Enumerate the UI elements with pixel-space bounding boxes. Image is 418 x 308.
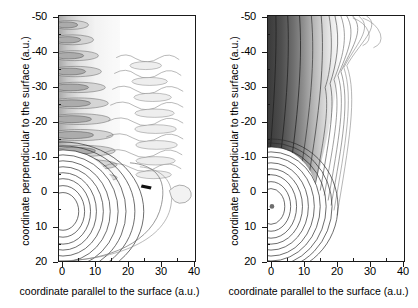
plot-area-right [267, 15, 405, 262]
y-tick-major [262, 17, 267, 18]
x-tick-minor [78, 258, 79, 262]
y-tick-major [262, 262, 267, 263]
y-tick-major [53, 262, 58, 263]
y-tick-minor [58, 104, 61, 105]
x-tick-minor [144, 258, 145, 262]
x-tick-label: 10 [289, 266, 319, 277]
y-tick-minor [58, 174, 61, 175]
y-tick-major [262, 192, 267, 193]
y-tick-major [53, 192, 58, 193]
y-tick-minor [267, 69, 270, 70]
y-tick-minor [267, 174, 270, 175]
chart-panel-left: -50 -40 -30 -20 -10 0 10 20 0 10 20 30 4… [0, 0, 209, 308]
y-tick-minor [267, 244, 270, 245]
x-tick-minor [287, 258, 288, 262]
plot-area-left [58, 15, 196, 262]
x-axis-title: coordinate parallel to the surface (a.u.… [12, 285, 207, 297]
x-tick-minor [386, 258, 387, 262]
y-tick-major [262, 52, 267, 53]
x-tick-label: 20 [322, 266, 352, 277]
contour-plot-left [59, 16, 195, 261]
y-tick-major [53, 227, 58, 228]
x-tick-label: 30 [146, 266, 176, 277]
y-axis-title: coordinate perpendicular to the surface … [19, 21, 31, 261]
y-tick-major [262, 87, 267, 88]
x-tick-minor [177, 258, 178, 262]
y-tick-minor [267, 104, 270, 105]
y-axis-title: coordinate perpendicular to the surface … [228, 21, 240, 261]
y-tick-major [262, 122, 267, 123]
x-tick-label: 0 [47, 266, 77, 277]
y-tick-major [53, 157, 58, 158]
x-tick-label: 40 [388, 266, 418, 277]
y-tick-minor [58, 139, 61, 140]
y-tick-major [53, 87, 58, 88]
y-tick-minor [267, 34, 270, 35]
y-tick-minor [58, 209, 61, 210]
x-tick-label: 30 [355, 266, 385, 277]
chart-panel-right: -50 -40 -30 -20 -10 0 10 20 0 10 20 30 4… [209, 0, 418, 308]
y-tick-major [262, 157, 267, 158]
y-tick-minor [58, 69, 61, 70]
y-tick-minor [267, 139, 270, 140]
x-tick-label: 40 [179, 266, 209, 277]
y-tick-minor [58, 244, 61, 245]
contour-plot-right [268, 16, 404, 261]
y-tick-minor [267, 209, 270, 210]
x-tick-minor [320, 258, 321, 262]
y-tick-major [262, 227, 267, 228]
x-tick-label: 10 [80, 266, 110, 277]
y-tick-minor [58, 34, 61, 35]
y-tick-major [53, 52, 58, 53]
x-axis-title: coordinate parallel to the surface (a.u.… [221, 285, 416, 297]
y-tick-major [53, 122, 58, 123]
x-tick-minor [111, 258, 112, 262]
x-tick-label: 20 [113, 266, 143, 277]
x-tick-label: 0 [256, 266, 286, 277]
x-tick-minor [353, 258, 354, 262]
y-tick-major [53, 17, 58, 18]
figure-root: -50 -40 -30 -20 -10 0 10 20 0 10 20 30 4… [0, 0, 418, 308]
